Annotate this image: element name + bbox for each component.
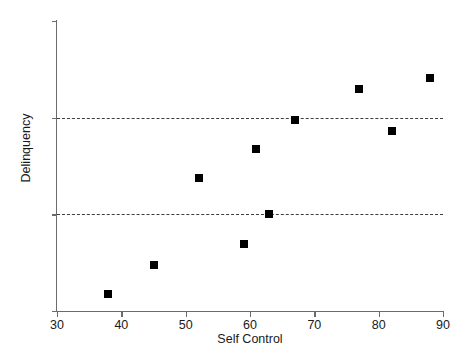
x-tick-label-40: 40 (114, 319, 128, 332)
x-tick-labels: 30405060708090 (0, 0, 467, 359)
scatter-chart-figure: 0102030 30405060708090 Self Control Deli… (0, 0, 467, 359)
x-tick-label-90: 90 (436, 319, 450, 332)
data-point (355, 85, 363, 93)
data-point (252, 145, 260, 153)
data-point (150, 261, 158, 269)
data-point (388, 127, 396, 135)
x-tick-label-30: 30 (50, 319, 64, 332)
y-axis-label: Delinquency (19, 78, 33, 218)
data-point (104, 290, 112, 298)
x-tick-label-70: 70 (307, 319, 321, 332)
data-point (426, 74, 434, 82)
data-point (195, 174, 203, 182)
x-tick-label-60: 60 (243, 319, 257, 332)
x-axis-label: Self Control (57, 332, 443, 346)
data-point (240, 240, 248, 248)
x-tick-label-50: 50 (179, 319, 193, 332)
data-point (265, 210, 273, 218)
data-point (291, 116, 299, 124)
x-tick-label-80: 80 (372, 319, 386, 332)
